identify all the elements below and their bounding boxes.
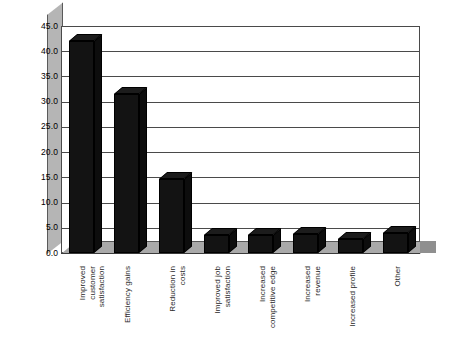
- bar-front-face: [114, 94, 139, 253]
- x-axis-category-label: Increasedcompetitive edge: [258, 266, 277, 354]
- bar-side-face: [139, 87, 147, 253]
- x-axis-category-label: Reduction incosts: [168, 266, 187, 354]
- bar-front-face: [69, 41, 94, 253]
- bar-side-face: [94, 34, 102, 253]
- floor-front-edge: [61, 253, 420, 254]
- bar-column: [338, 239, 363, 253]
- y-axis: 45.040.035.030.025.020.015.010.05.00.0: [0, 0, 58, 357]
- bar-front-face: [159, 179, 184, 253]
- x-axis-category-label: Increasedrevenue: [303, 266, 322, 354]
- x-axis-category-label: Improvedcustomersatisfaction: [78, 266, 107, 354]
- y-axis-tick-label: 45.0: [41, 22, 58, 31]
- y-axis-tick-label: 25.0: [41, 122, 58, 131]
- bar-front-face: [204, 235, 229, 253]
- x-axis-labels: ImprovedcustomersatisfactionEfficiency g…: [61, 266, 420, 357]
- floor-edge-right: [420, 241, 436, 253]
- y-axis-tick-label: 40.0: [41, 47, 58, 56]
- y-axis-tick-label: 20.0: [41, 148, 58, 157]
- x-axis-category-label: Efficiency gains: [123, 266, 133, 354]
- x-axis-category-label: Other: [393, 266, 403, 354]
- y-axis-tick-label: 30.0: [41, 97, 58, 106]
- bar-column: [383, 233, 408, 253]
- bar-front-face: [383, 233, 408, 253]
- bar-front-face: [248, 235, 273, 253]
- y-axis-tick-label: 10.0: [41, 198, 58, 207]
- bar-column: [204, 235, 229, 253]
- bar-series: [61, 26, 420, 253]
- bar-column: [69, 41, 94, 253]
- bar-chart: 45.040.035.030.025.020.015.010.05.00.0 I…: [0, 0, 449, 357]
- y-axis-tick-label: 35.0: [41, 72, 58, 81]
- bar-front-face: [338, 239, 363, 253]
- bar-column: [114, 94, 139, 253]
- bar-column: [159, 179, 184, 253]
- bar-front-face: [293, 234, 318, 253]
- bar-column: [293, 234, 318, 253]
- y-axis-tick-label: 5.0: [46, 223, 58, 232]
- y-axis-tick-label: 15.0: [41, 173, 58, 182]
- bar-column: [248, 235, 273, 253]
- bar-side-face: [184, 172, 192, 253]
- x-axis-category-label: Increased profile: [348, 266, 358, 354]
- y-axis-tick-label: 0.0: [46, 249, 58, 258]
- x-axis-category-label: Improved jobsatisfaction: [213, 266, 232, 354]
